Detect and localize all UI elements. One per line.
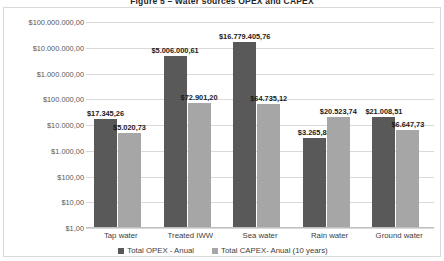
chart-frame: $100.000.000,00$10.000.000,00$1.000.000,… (3, 7, 441, 257)
figure-title: Figure 5 – Water sources OPEX and CAPEX (0, 0, 444, 6)
x-axis-category-label: Tap water (104, 231, 138, 240)
legend-label: Total CAPEX- Anual (10 years) (221, 246, 328, 255)
legend-label: Total OPEX - Anual (127, 246, 194, 255)
x-axis-category-label: Sea water (242, 231, 277, 240)
x-axis-category-label: Ground water (376, 231, 423, 240)
y-axis-tick-label: $10.000,00 (6, 121, 84, 130)
legend-item[interactable]: Total CAPEX- Anual (10 years) (212, 246, 328, 255)
y-axis-tick-label: $100.000.000,00 (6, 18, 84, 27)
legend-swatch-icon (212, 248, 218, 254)
y-axis-tick-label: $10,00 (6, 198, 84, 207)
y-axis-tick-label: $1,00 (6, 224, 84, 233)
legend-item[interactable]: Total OPEX - Anual (118, 246, 194, 255)
x-axis-category-labels: Tap waterTreated IWWSea waterRain waterG… (86, 8, 434, 258)
y-axis-tick-label: $1.000.000,00 (6, 69, 84, 78)
y-axis-tick-label: $100.000,00 (6, 95, 84, 104)
y-axis-tick-label: $1.000,00 (6, 146, 84, 155)
x-axis-category-label: Rain water (311, 231, 348, 240)
x-axis-category-label: Treated IWW (168, 231, 214, 240)
y-axis-tick-label: $10.000.000,00 (6, 43, 84, 52)
chart-legend: Total OPEX - AnualTotal CAPEX- Anual (10… (4, 246, 442, 255)
y-axis-tick-labels: $100.000.000,00$10.000.000,00$1.000.000,… (4, 22, 84, 228)
y-axis-tick-label: $100,00 (6, 172, 84, 181)
legend-swatch-icon (118, 248, 124, 254)
